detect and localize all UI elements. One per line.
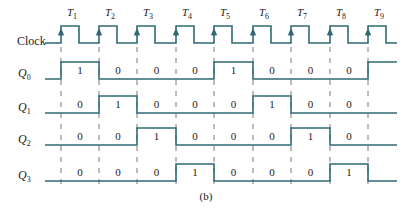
waveform-q0: [45, 62, 397, 79]
state-value: 0: [154, 64, 160, 76]
state-value: 0: [154, 166, 160, 178]
signal-label-q1: Q1: [18, 100, 31, 116]
state-value: 1: [192, 166, 198, 178]
state-value: 1: [115, 98, 121, 110]
timing-diagram: [0, 0, 418, 209]
rising-edge-arrow-icon: [251, 29, 256, 35]
state-value: 0: [192, 130, 198, 142]
state-value: 0: [346, 64, 352, 76]
rising-edge-arrow-icon: [135, 29, 140, 35]
rising-edge-arrow-icon: [212, 29, 217, 35]
signal-label-q2: Q2: [18, 132, 31, 148]
state-value: 0: [154, 98, 160, 110]
state-value: 0: [308, 166, 314, 178]
signal-label-q3: Q3: [18, 168, 31, 184]
state-value: 0: [192, 64, 198, 76]
time-label-t9: T9: [374, 6, 384, 21]
waveform-q3: [45, 164, 397, 181]
time-label-t6: T6: [259, 6, 269, 21]
state-value: 1: [346, 166, 352, 178]
signal-label-q0: Q0: [18, 66, 31, 82]
rising-edge-arrow-icon: [328, 29, 333, 35]
state-value: 0: [308, 64, 314, 76]
time-label-t3: T3: [143, 6, 153, 21]
state-value: 0: [231, 98, 237, 110]
state-value: 0: [115, 166, 121, 178]
state-value: 0: [231, 130, 237, 142]
state-value: 0: [308, 98, 314, 110]
rising-edge-arrow-icon: [97, 29, 102, 35]
state-value: 1: [308, 130, 314, 142]
state-value: 0: [346, 98, 352, 110]
state-value: 0: [269, 130, 275, 142]
rising-edge-arrow-icon: [59, 29, 64, 35]
waveform-q2: [45, 128, 397, 145]
state-value: 1: [77, 64, 83, 76]
rising-edge-arrow-icon: [366, 29, 371, 35]
state-value: 0: [346, 130, 352, 142]
state-value: 0: [231, 166, 237, 178]
state-value: 1: [231, 64, 237, 76]
time-label-t1: T1: [67, 6, 77, 21]
state-value: 0: [77, 166, 83, 178]
state-value: 0: [115, 130, 121, 142]
state-value: 0: [192, 98, 198, 110]
state-value: 0: [77, 98, 83, 110]
time-label-t2: T2: [105, 6, 115, 21]
rising-edge-arrow-icon: [174, 29, 179, 35]
rising-edge-arrow-icon: [289, 29, 294, 35]
figure-caption: (b): [200, 190, 213, 202]
state-value: 0: [115, 64, 121, 76]
state-value: 1: [154, 130, 160, 142]
time-label-t5: T5: [220, 6, 230, 21]
time-label-t7: T7: [297, 6, 307, 21]
waveform-q1: [45, 96, 397, 113]
state-value: 0: [269, 166, 275, 178]
state-value: 1: [269, 98, 275, 110]
state-value: 0: [77, 130, 83, 142]
time-label-t8: T8: [336, 6, 346, 21]
state-value: 0: [269, 64, 275, 76]
clock-label: Clock: [17, 34, 46, 49]
time-label-t4: T4: [182, 6, 192, 21]
